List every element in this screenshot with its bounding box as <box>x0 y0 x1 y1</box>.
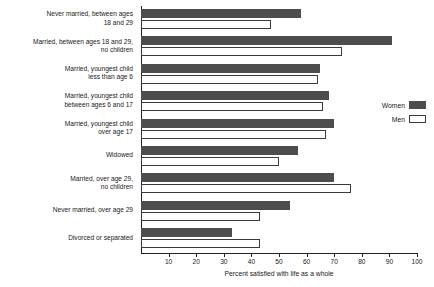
category-label: Married, youngest childover age 17 <box>0 120 133 137</box>
axis-tick <box>279 253 280 257</box>
category-label: Never married, over age 29 <box>0 206 133 215</box>
legend-label-women: Women <box>382 102 405 109</box>
bar-men <box>141 20 271 29</box>
axis-tick <box>224 253 225 257</box>
bar-men <box>141 75 318 84</box>
legend-label-men: Men <box>392 116 405 123</box>
legend-item-men: Men <box>352 112 426 126</box>
axis-tick-label: 10 <box>157 258 181 265</box>
axis-tick-label: 60 <box>295 258 319 265</box>
axis-tick <box>362 253 363 257</box>
category-axis-labels: Never married, between ages18 and 29Marr… <box>0 6 137 253</box>
bar-men <box>141 130 326 139</box>
axis-tick-label: 30 <box>212 258 236 265</box>
bar-group <box>141 6 417 33</box>
bar-women <box>141 173 334 182</box>
category-label: Married, over age 29,no children <box>0 175 133 192</box>
bar-group <box>141 61 417 88</box>
bar-women <box>141 36 392 45</box>
axis-tick <box>307 253 308 257</box>
axis-tick-label: 70 <box>322 258 346 265</box>
axis-tick-label: 50 <box>267 258 291 265</box>
bar-men <box>141 102 323 111</box>
axis-tick-label: 20 <box>184 258 208 265</box>
bar-groups <box>141 6 417 253</box>
category-label: Married, youngest childbetween ages 6 an… <box>0 92 133 109</box>
axis-tick <box>196 253 197 257</box>
axis-tick <box>389 253 390 257</box>
bar-women <box>141 91 329 100</box>
category-label: Married, between ages 18 and 29,no child… <box>0 38 133 55</box>
axis-tick-label: 80 <box>350 258 374 265</box>
chart-legend: Women Men <box>352 98 426 126</box>
x-axis-title: Percent satisfied with life as a whole <box>141 270 417 277</box>
bar-women <box>141 119 334 128</box>
axis-tick <box>251 253 252 257</box>
plot-area <box>141 6 417 253</box>
category-label: Divorced or separated <box>0 234 133 243</box>
bar-group <box>141 143 417 170</box>
bar-men <box>141 47 342 56</box>
axis-tick <box>169 253 170 257</box>
bar-group <box>141 198 417 225</box>
bar-men <box>141 184 351 193</box>
bar-women <box>141 228 232 237</box>
bar-group <box>141 225 417 252</box>
satisfaction-bar-chart: Never married, between ages18 and 29Marr… <box>0 0 434 287</box>
bar-men <box>141 239 260 248</box>
bar-women <box>141 9 301 18</box>
bar-men <box>141 212 260 221</box>
category-label: Never married, between ages18 and 29 <box>0 10 133 27</box>
legend-item-women: Women <box>352 98 426 112</box>
legend-swatch-men <box>409 115 426 123</box>
bar-women <box>141 201 290 210</box>
bar-group <box>141 33 417 60</box>
bar-women <box>141 146 298 155</box>
axis-tick <box>417 253 418 257</box>
axis-tick-label: 100 <box>405 258 429 265</box>
axis-tick <box>334 253 335 257</box>
legend-swatch-women <box>409 101 426 109</box>
bar-women <box>141 64 320 73</box>
bar-men <box>141 157 279 166</box>
bar-group <box>141 170 417 197</box>
axis-tick-label: 40 <box>239 258 263 265</box>
category-label: Widowed <box>0 151 133 160</box>
category-label: Married, youngest childless than age 6 <box>0 65 133 82</box>
axis-tick-label: 90 <box>377 258 401 265</box>
